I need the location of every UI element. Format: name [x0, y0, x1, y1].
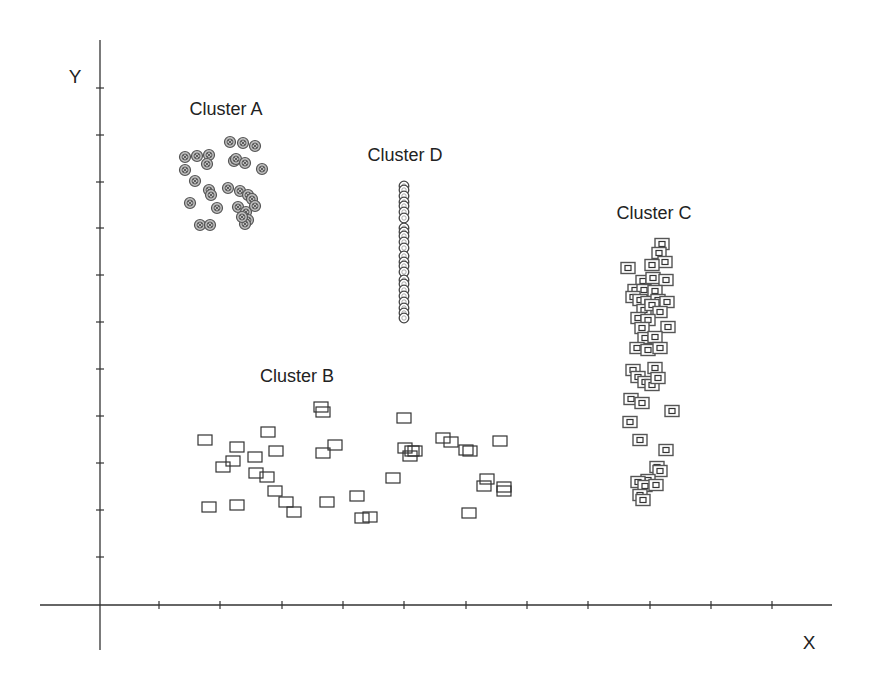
square-marker-inner: [645, 348, 651, 353]
cluster-b-label: Cluster B: [260, 366, 334, 386]
x-axis-label: X: [803, 632, 816, 653]
square-marker: [268, 486, 282, 496]
square-marker-inner: [657, 346, 663, 351]
axes: Y X: [40, 40, 832, 653]
square-marker-inner: [662, 260, 668, 265]
square-marker: [497, 482, 511, 492]
square-marker-inner: [669, 409, 675, 414]
square-marker: [198, 435, 212, 445]
square-marker-inner: [642, 484, 648, 489]
cluster-a-label: Cluster A: [189, 99, 262, 119]
square-marker: [436, 433, 450, 443]
square-marker-inner: [634, 346, 640, 351]
square-marker-inner: [652, 335, 658, 340]
square-marker: [279, 497, 293, 507]
square-marker-inner: [627, 420, 633, 425]
square-marker: [397, 413, 411, 423]
cluster-b-points: [198, 402, 511, 523]
square-marker: [462, 508, 476, 518]
square-marker-inner: [657, 469, 663, 474]
square-marker-inner: [657, 310, 663, 315]
square-marker: [230, 442, 244, 452]
square-marker-inner: [663, 278, 669, 283]
square-marker-inner: [650, 276, 656, 281]
circle-marker: [399, 313, 409, 323]
square-marker: [226, 456, 240, 466]
circle-marker: [399, 213, 409, 223]
square-marker: [260, 472, 274, 482]
square-marker-inner: [649, 263, 655, 268]
square-marker: [386, 473, 400, 483]
cluster-a-points: [180, 137, 268, 231]
square-marker: [202, 502, 216, 512]
square-marker: [287, 507, 301, 517]
square-marker-inner: [663, 448, 669, 453]
square-marker: [216, 462, 230, 472]
cluster-annotations: Cluster A Cluster D Cluster C Cluster B: [189, 99, 691, 386]
cluster-c-label: Cluster C: [616, 203, 691, 223]
square-marker: [480, 474, 494, 484]
square-marker-inner: [641, 288, 647, 293]
square-marker-inner: [628, 397, 634, 402]
square-marker-inner: [625, 266, 631, 271]
cluster-d-points: [399, 181, 409, 323]
square-marker-inner: [656, 251, 662, 256]
square-marker: [477, 481, 491, 491]
square-marker: [249, 468, 263, 478]
square-marker: [350, 491, 364, 501]
cluster-d-label: Cluster D: [367, 145, 442, 165]
square-marker-inner: [653, 483, 659, 488]
data-points: [180, 137, 680, 524]
square-marker-inner: [664, 300, 670, 305]
square-marker-inner: [659, 242, 665, 247]
square-marker: [261, 427, 275, 437]
square-marker: [230, 500, 244, 510]
square-marker-inner: [652, 289, 658, 294]
square-marker: [493, 436, 507, 446]
square-marker-inner: [639, 401, 645, 406]
y-axis-label: Y: [69, 66, 82, 87]
square-marker: [269, 446, 283, 456]
square-marker-inner: [645, 318, 651, 323]
square-marker-inner: [665, 325, 671, 330]
square-marker-inner: [655, 376, 661, 381]
square-marker-inner: [635, 316, 641, 321]
square-marker: [248, 452, 262, 462]
scatter-chart: Y X Cluster A Cluster D Cluster C Cluste…: [0, 0, 870, 683]
square-marker: [497, 486, 511, 496]
square-marker-inner: [640, 279, 646, 284]
square-marker-inner: [639, 326, 645, 331]
square-marker-inner: [637, 438, 643, 443]
square-marker: [444, 437, 458, 447]
square-marker: [320, 497, 334, 507]
square-marker-inner: [640, 498, 646, 503]
cluster-c-points: [621, 239, 679, 506]
square-marker-inner: [642, 336, 648, 341]
square-marker-inner: [652, 366, 658, 371]
